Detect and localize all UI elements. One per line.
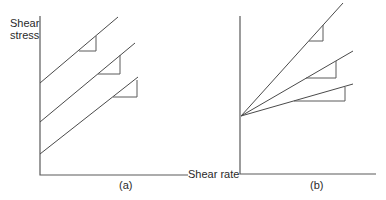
panel-b-line-shallow (241, 84, 353, 116)
x-axis-label: Shear rate (188, 168, 239, 180)
panel-a-line-low (40, 77, 138, 154)
panel-b-line-steep (241, 3, 343, 116)
shear-stress-diagram: Shear stress (a) Shear rate (b) (0, 0, 386, 200)
panel-b-label: (b) (310, 179, 323, 191)
panel-a: (a) (40, 16, 188, 191)
panel-b-line-medium (241, 51, 353, 116)
panel-a-line-high (40, 17, 118, 83)
panel-a-line-medium (40, 43, 135, 122)
y-axis-label-line1: Shear (10, 17, 40, 29)
panel-a-label: (a) (119, 179, 132, 191)
y-axis-label-line2: stress (10, 29, 40, 41)
panel-b: (b) (240, 3, 376, 191)
